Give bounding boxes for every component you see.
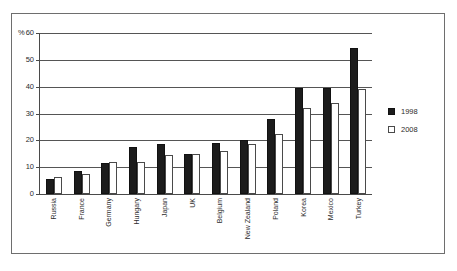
y-axis-tick-label: 50 [26, 56, 34, 64]
legend-label-1998: 1998 [401, 108, 418, 116]
bar-1998[interactable] [129, 147, 137, 194]
x-axis-label-cell: Belgium [206, 196, 234, 254]
x-axis-label-cell: Hungary [122, 196, 150, 254]
x-axis-labels: RussiaFranceGermanyHungaryJapanUKBelgium… [39, 196, 372, 254]
bar-1998[interactable] [240, 140, 248, 194]
x-axis-label: Belgium [216, 198, 223, 223]
bar-1998[interactable] [212, 143, 220, 194]
bar-1998[interactable] [157, 144, 165, 194]
y-axis-unit-label: % [18, 28, 25, 37]
bar-group [123, 33, 151, 194]
bar-1998[interactable] [101, 163, 109, 194]
legend-item-2008[interactable]: 2008 [388, 126, 418, 134]
x-axis-label: Germany [105, 198, 112, 227]
plot-area: 01020304050%60 [39, 33, 372, 195]
bar-2008[interactable] [331, 103, 339, 194]
y-axis-tick-label: 20 [26, 137, 34, 145]
bar-group [95, 33, 123, 194]
bar-2008[interactable] [82, 174, 90, 194]
legend-swatch-1998-icon [388, 108, 395, 115]
bar-2008[interactable] [358, 89, 366, 194]
bar-1998[interactable] [74, 171, 82, 194]
chart-legend: 1998 2008 [388, 108, 418, 133]
bar-group [317, 33, 345, 194]
x-axis-label-cell: New Zealand [233, 196, 261, 254]
plot-area-wrapper: 01020304050%60 [39, 33, 372, 195]
bar-1998[interactable] [184, 154, 192, 194]
bar-2008[interactable] [192, 154, 200, 194]
bar-2008[interactable] [109, 162, 117, 194]
bar-1998[interactable] [46, 179, 54, 194]
bar-group [178, 33, 206, 194]
bar-1998[interactable] [323, 88, 331, 194]
x-axis-label: Poland [271, 198, 278, 220]
legend-label-2008: 2008 [401, 126, 418, 134]
x-axis-label: Russia [49, 198, 56, 219]
bar-2008[interactable] [275, 134, 283, 194]
y-axis-tick-label: 30 [26, 110, 34, 118]
bar-1998[interactable] [350, 48, 358, 194]
x-axis-label-cell: Mexico [317, 196, 345, 254]
bar-group [40, 33, 68, 194]
y-axis-tick-label: 0 [30, 190, 34, 198]
x-axis-label-cell: Poland [261, 196, 289, 254]
x-axis-label-cell: UK [178, 196, 206, 254]
x-axis-label-cell: Korea [289, 196, 317, 254]
x-axis-label: Hungary [133, 198, 140, 224]
x-axis-label-cell: France [67, 196, 95, 254]
y-axis-tick-label: 40 [26, 83, 34, 91]
bar-1998[interactable] [295, 88, 303, 194]
x-axis-label: Turkey [355, 198, 362, 219]
bar-group [151, 33, 179, 194]
x-axis-label: Korea [299, 198, 306, 217]
x-axis-label: France [77, 198, 84, 220]
y-axis-tick [36, 194, 40, 195]
bar-group [344, 33, 372, 194]
x-axis-label: UK [188, 198, 195, 208]
bar-2008[interactable] [165, 155, 173, 194]
x-axis-label: Mexico [327, 198, 334, 220]
bar-1998[interactable] [267, 119, 275, 194]
bar-group [206, 33, 234, 194]
bar-group [234, 33, 262, 194]
x-axis-label: Japan [160, 198, 167, 217]
bar-2008[interactable] [137, 162, 145, 194]
bar-group [68, 33, 96, 194]
x-axis-label-cell: Russia [39, 196, 67, 254]
x-axis-label-cell: Turkey [344, 196, 372, 254]
bar-group [289, 33, 317, 194]
bar-2008[interactable] [248, 144, 256, 194]
y-axis-tick-label: 10 [26, 163, 34, 171]
chart-figure: 01020304050%60 RussiaFranceGermanyHungar… [0, 0, 457, 271]
x-axis-label: New Zealand [244, 198, 251, 239]
legend-swatch-2008-icon [388, 126, 395, 133]
x-axis-label-cell: Japan [150, 196, 178, 254]
bar-2008[interactable] [54, 177, 62, 194]
bar-2008[interactable] [303, 108, 311, 194]
bar-2008[interactable] [220, 151, 228, 194]
bar-group [261, 33, 289, 194]
x-axis-label-cell: Germany [95, 196, 123, 254]
legend-item-1998[interactable]: 1998 [388, 108, 418, 116]
y-axis-tick-label: %60 [18, 29, 34, 37]
bars-group [40, 33, 372, 194]
